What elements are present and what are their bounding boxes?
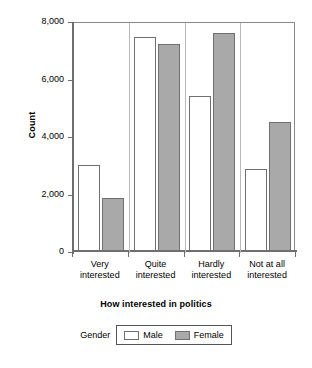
- x-tick-mark: [295, 252, 296, 257]
- bar-female-2: [213, 33, 235, 252]
- y-tick-label: 4,000: [24, 132, 64, 141]
- x-tick-mark: [128, 252, 129, 257]
- x-category-label-line: interested: [239, 270, 295, 281]
- x-category-label: Hardlyinterested: [184, 259, 240, 281]
- x-category-label: Quiteinterested: [128, 259, 184, 281]
- legend: Gender Male Female: [0, 325, 312, 345]
- legend-item-male: Male: [124, 330, 163, 340]
- group-separator: [185, 23, 186, 253]
- bar-female-0: [102, 198, 124, 251]
- plot-area: [72, 22, 295, 252]
- x-tick-mark: [184, 252, 185, 257]
- legend-item-female: Female: [175, 330, 224, 340]
- bar-male-3: [245, 169, 267, 251]
- legend-label-male: Male: [143, 330, 163, 340]
- x-category-label-line: interested: [72, 270, 128, 281]
- y-tick-label: 6,000: [24, 75, 64, 84]
- bar-chart-figure: Count 02,0004,0006,0008,000 Veryinterest…: [0, 0, 312, 368]
- white-square-icon: [124, 331, 139, 340]
- x-axis-title: How interested in politics: [0, 299, 312, 309]
- x-category-label-line: Quite: [128, 259, 184, 270]
- y-axis-line: [72, 22, 74, 254]
- x-category-label-line: Hardly: [184, 259, 240, 270]
- x-tick-mark: [239, 252, 240, 257]
- x-category-label-line: interested: [128, 270, 184, 281]
- bar-male-2: [189, 96, 211, 251]
- group-separator: [129, 23, 130, 253]
- bar-male-1: [134, 37, 156, 251]
- x-category-label-line: interested: [184, 270, 240, 281]
- bar-male-0: [78, 165, 100, 251]
- bar-female-3: [269, 122, 291, 251]
- bar-female-1: [158, 44, 180, 251]
- x-tick-mark: [72, 252, 73, 257]
- x-category-label-line: Very: [72, 259, 128, 270]
- y-tick-label: 2,000: [24, 190, 64, 199]
- x-category-label: Not at allinterested: [239, 259, 295, 281]
- group-separator: [240, 23, 241, 253]
- legend-title: Gender: [80, 330, 110, 340]
- legend-label-female: Female: [194, 330, 224, 340]
- legend-box: Male Female: [116, 325, 232, 345]
- x-category-label-line: Not at all: [239, 259, 295, 270]
- x-category-label: Veryinterested: [72, 259, 128, 281]
- y-axis-tick-labels: 02,0004,0006,0008,000: [22, 0, 64, 368]
- y-tick-label: 0: [24, 247, 64, 256]
- y-tick-label: 8,000: [24, 17, 64, 26]
- gray-square-icon: [175, 331, 190, 340]
